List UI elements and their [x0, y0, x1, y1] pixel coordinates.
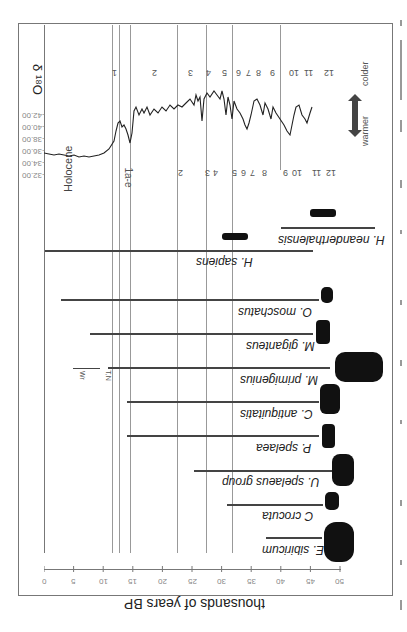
bear-silhouette-icon — [332, 454, 354, 486]
x-tick-label: 0 — [42, 577, 46, 586]
stage-label: 1 — [112, 68, 117, 78]
d18o-tick: -38.00 — [22, 135, 45, 144]
stage-label: 4 — [206, 68, 211, 78]
range-bar-crocuta — [227, 504, 323, 506]
muskox-silhouette-icon — [321, 287, 333, 303]
stage-label: 5 — [232, 168, 237, 178]
x-tick-label: 30 — [217, 577, 226, 586]
stage-label: 10 — [292, 168, 302, 178]
stage-label: 11 — [304, 68, 313, 78]
species-label: M. primigenius — [240, 373, 318, 387]
stage-label: 8 — [256, 68, 261, 78]
range-bar-antiquitatis — [127, 401, 319, 403]
arrow-head-up — [348, 94, 362, 101]
range-bar-spelaeus — [194, 470, 332, 472]
rhino-silhouette-icon — [320, 384, 340, 414]
d18o-tick: -32.00 — [22, 171, 45, 180]
stage-label: 3 — [188, 68, 193, 78]
x-axis-title: thousands of years BP — [124, 596, 265, 612]
human-silhouette-icon — [222, 233, 248, 240]
range-bar-giganteus — [90, 333, 313, 335]
stage-label: 4 — [213, 168, 218, 178]
holocene-label: Holocene — [62, 146, 74, 192]
temperature-arrow — [352, 100, 358, 130]
lion-silhouette-icon — [322, 424, 335, 448]
stage-label: 9 — [283, 168, 288, 178]
x-tick-label: 40 — [276, 577, 285, 586]
stage-label: 5 — [222, 68, 227, 78]
stage-label: 1a-e — [123, 167, 134, 187]
caption-cutoff — [398, 0, 407, 632]
hyena-silhouette-icon — [325, 492, 339, 510]
x-tick-label: 10 — [99, 577, 108, 586]
species-label: H. sapiens — [196, 255, 253, 269]
wr-marker-label: Wr — [79, 371, 86, 380]
mammoth-silhouette-icon — [335, 352, 383, 382]
stage-label: 11 — [312, 168, 321, 178]
tn-marker-label: T,N — [105, 370, 112, 381]
neanderthal-silhouette-icon — [310, 209, 336, 217]
x-tick-label: 45 — [306, 577, 315, 586]
species-label: H. neanderthalensis — [278, 233, 385, 247]
stage-label: 6 — [241, 168, 246, 178]
stage-label: 9 — [270, 68, 275, 78]
stage-label: 6 — [236, 68, 241, 78]
stage-label: 12 — [324, 68, 334, 78]
warmer-label: warmer — [360, 116, 370, 146]
x-tick-label: 20 — [158, 577, 167, 586]
range-bar-sapiens — [45, 250, 313, 252]
x-tick-label: 25 — [188, 577, 197, 586]
x-tick-label: 15 — [128, 577, 137, 586]
species-label: C. antiquitatis — [240, 407, 313, 421]
species-label: M. giganteus — [246, 339, 315, 353]
species-label: P. spelaea — [256, 441, 311, 455]
range-bar-sibiricum — [266, 537, 322, 539]
wr-marker-bar — [73, 368, 100, 369]
species-label: E. sibiricum — [262, 543, 324, 557]
species-label: U. spelaeus group — [222, 475, 319, 489]
x-tick-label: 50 — [335, 577, 344, 586]
elasmotherium-silhouette-icon — [324, 522, 354, 562]
species-label: C crocuta — [262, 509, 313, 523]
stage-label: 12 — [326, 168, 336, 178]
d18o-tick: -40.00 — [22, 123, 45, 132]
d18o-curve — [44, 85, 344, 165]
stage-label: 7 — [250, 168, 255, 178]
stage-label: 8 — [262, 168, 267, 178]
d18o-tick: -42.00 — [22, 111, 45, 120]
range-bar-neanderthalensis — [281, 227, 375, 229]
d18o-title: δ ¹⁸O — [30, 64, 45, 95]
stage-label: 10 — [289, 68, 299, 78]
d18o-tick: -36.00 — [22, 147, 45, 156]
megaloceros-silhouette-icon — [316, 320, 330, 344]
range-bar-primigenius — [108, 367, 330, 369]
stage-label: 2 — [152, 68, 157, 78]
stage-label: 7 — [246, 68, 251, 78]
range-bar-moschatus — [61, 299, 319, 301]
stage-label: 3 — [205, 168, 210, 178]
x-tick-label: 5 — [71, 577, 75, 586]
x-axis-ticks — [44, 566, 344, 572]
stage-label: 2 — [178, 168, 183, 178]
range-bar-spelaea — [127, 435, 319, 437]
colder-label: colder — [360, 61, 370, 86]
x-tick-label: 35 — [247, 577, 256, 586]
species-label: O. moschatus — [238, 305, 312, 319]
d18o-tick: -34.00 — [22, 159, 45, 168]
